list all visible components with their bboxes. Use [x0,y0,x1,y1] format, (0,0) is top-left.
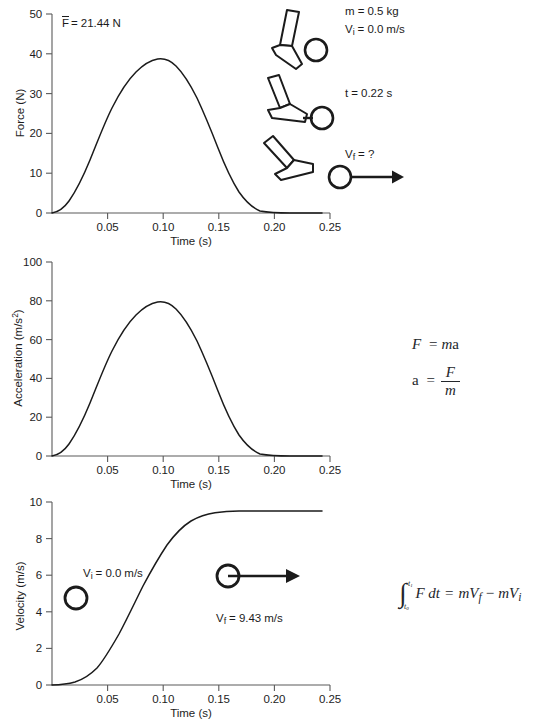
integral-sign-wrap: ∫ t1 t0 [399,583,406,606]
ball-bottom [329,166,351,188]
accel-ytick-100: 100 [14,256,42,268]
accel-y-ticks [46,262,52,456]
vel-yaxis-title: Velocity (m/s) [14,561,26,630]
vel-vi-subscript: i [91,571,93,581]
time-annotation: t = 0.22 s [345,87,392,99]
force-ytick-40: 40 [18,48,42,60]
impulse-m2: m [498,585,509,601]
accel-yaxis-title: Acceleration (m/s2) [10,309,24,406]
force-x-ticks [108,213,330,219]
vel-vf-symbol: V [216,612,224,624]
accel-x-ticks [108,456,330,462]
vel-ytick-2: 2 [18,642,42,654]
newton-lhs: F [412,336,421,352]
acceleration-equation: a =Fm [412,364,462,399]
vel-vf-value: = 9.43 m/s [229,612,283,624]
velocity-chart-svg [0,488,543,728]
impulse-integrand: F dt [415,585,440,601]
accel-xtick-015: 0.15 [208,464,230,476]
ball-middle [311,107,333,129]
accel-xtick-025: 0.25 [319,464,341,476]
force-y-ticks [46,14,52,213]
leg-figure-middle [268,75,307,122]
force-xtick-010: 0.10 [152,221,174,233]
accel-eq-numerator: F [441,364,460,381]
mean-force-annotation: F= 21.44 N [62,16,121,29]
newton-second-law-equation: F =ma [412,336,459,353]
vel-final-annotation: Vf= 9.43 m/s [216,612,283,626]
accel-yaxis-title-main: Acceleration (m/s [12,318,24,407]
vf-value: = ? [358,148,374,160]
accel-eq-lhs: a [412,372,419,388]
vel-xtick-020: 0.20 [263,693,285,705]
vel-ytick-8: 8 [18,533,42,545]
integral-upper-limit: t1 [408,579,413,588]
impulse-V1-sub: f [478,591,481,604]
velocity-arrow-top [351,171,404,184]
force-ytick-0: 0 [18,207,42,219]
integral-lower-limit: t0 [404,602,409,611]
velocity-curve [52,511,322,685]
mean-force-symbol: F [62,16,69,29]
vel-x-ticks [108,685,330,691]
newton-accel: a [452,336,459,352]
accel-xtick-005: 0.05 [97,464,119,476]
initial-velocity-annotation: Vi= 0.0 m/s [345,23,405,37]
impulse-m1: m [458,585,469,601]
impulse-momentum-equation: ∫ t1 t0 F dt=mVf−mVi [399,583,521,606]
vel-y-ticks [46,502,52,685]
accel-eq-denominator: m [441,381,460,399]
accel-ytick-20: 20 [14,411,42,423]
vel-ytick-10: 10 [18,496,42,508]
acceleration-curve [52,302,322,456]
force-ytick-10: 10 [18,167,42,179]
force-xaxis-title: Time (s) [170,235,212,247]
accel-xtick-010: 0.10 [152,464,174,476]
accel-yaxis-title-end: ) [12,309,24,313]
accel-eq-fraction: Fm [441,364,460,399]
force-xtick-005: 0.05 [97,221,119,233]
vel-xtick-005: 0.05 [97,693,119,705]
vf-subscript: f [353,152,355,162]
final-velocity-question: Vf= ? [345,148,374,162]
vel-xtick-010: 0.10 [152,693,174,705]
vel-vi-symbol: V [83,567,91,579]
mass-annotation: m = 0.5 kg [345,5,399,17]
force-xtick-020: 0.20 [263,221,285,233]
vel-vi-value: = 0.0 m/s [96,567,143,579]
vel-xtick-025: 0.25 [319,693,341,705]
force-chart-svg [0,0,543,245]
force-xtick-015: 0.15 [208,221,230,233]
force-yaxis-title: Force (N) [14,89,26,138]
vi-value: = 0.0 m/s [358,23,405,35]
vel-xaxis-title: Time (s) [170,707,212,719]
accel-ytick-80: 80 [14,295,42,307]
vel-vf-subscript: f [224,616,226,626]
force-chart-panel: 0 10 20 30 40 50 0.05 0.10 0.15 0.20 0.2… [0,0,543,245]
newton-mass: m [441,336,452,352]
ball-at-rest [65,587,87,609]
accel-eq-equals: = [426,372,434,388]
impulse-minus: − [486,585,494,601]
ball-top [305,39,327,61]
force-ytick-50: 50 [18,8,42,20]
force-xtick-025: 0.25 [319,221,341,233]
vf-symbol: V [345,148,353,160]
integral-upper-sub: 1 [410,583,412,588]
accel-ytick-0: 0 [14,450,42,462]
vel-ytick-0: 0 [18,679,42,691]
integral-lower-sub: 0 [406,606,408,611]
vi-subscript: i [353,27,355,37]
accel-xtick-020: 0.20 [263,464,285,476]
leg-figure-bottom [264,136,313,180]
vel-initial-annotation: Vi= 0.0 m/s [83,567,143,581]
accel-yaxis-title-exp: 2 [10,313,20,318]
mean-force-value: = 21.44 N [71,17,121,29]
newton-equals: = [429,336,437,352]
vel-xtick-015: 0.15 [208,693,230,705]
impulse-V2-sub: i [518,591,521,604]
impulse-equals: = [445,585,453,601]
impulse-V2: V [509,585,518,601]
velocity-chart-panel: 0 2 4 6 8 10 0.05 0.10 0.15 0.20 0.25 Ti… [0,488,543,728]
physics-figure: 0 10 20 30 40 50 0.05 0.10 0.15 0.20 0.2… [0,0,543,728]
